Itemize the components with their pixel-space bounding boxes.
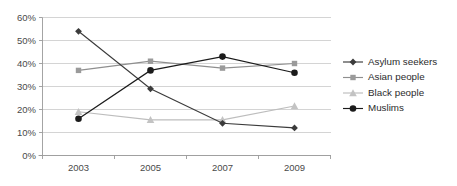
x-axis-tick-label: 2009 <box>284 162 305 173</box>
y-axis-tick-label: 60% <box>17 12 37 23</box>
data-point-asian-people <box>292 61 297 66</box>
data-point-asian-people <box>148 59 153 64</box>
data-point-legend-asian-people <box>350 75 355 80</box>
legend-label-asian-people: Asian people <box>368 71 425 82</box>
data-point-asian-people <box>76 68 81 73</box>
y-axis-tick-label: 0% <box>22 150 36 161</box>
data-point-muslims <box>291 69 298 76</box>
data-point-asian-people <box>220 65 225 70</box>
y-axis-tick-label: 10% <box>17 127 37 138</box>
data-point-muslims <box>219 53 226 60</box>
x-axis-tick-label: 2005 <box>140 162 161 173</box>
y-axis-tick-label: 40% <box>17 58 37 69</box>
legend-label-black-people: Black people <box>368 87 425 98</box>
line-chart: 0%10%20%30%40%50%60% 2003200520072009 As… <box>0 0 457 186</box>
y-axis-tick-label: 30% <box>17 81 37 92</box>
legend-label-muslims: Muslims <box>368 102 404 113</box>
data-point-legend-muslims <box>350 105 357 112</box>
y-axis-tick-label: 50% <box>17 35 37 46</box>
chart-canvas: 0%10%20%30%40%50%60% 2003200520072009 As… <box>0 0 457 186</box>
x-axis-tick-label: 2007 <box>212 162 233 173</box>
y-axis-tick-label: 20% <box>17 104 37 115</box>
data-point-muslims <box>147 67 154 74</box>
x-axis-tick-label: 2003 <box>68 162 89 173</box>
legend-label-asylum-seekers: Asylum seekers <box>368 56 437 67</box>
data-point-muslims <box>75 115 82 122</box>
